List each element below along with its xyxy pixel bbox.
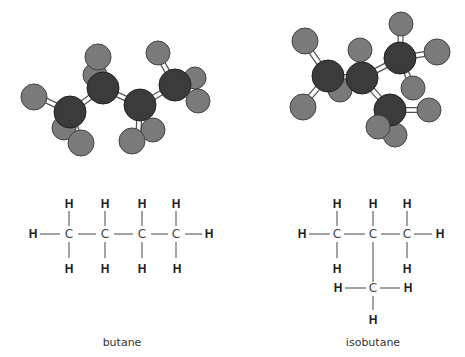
atom-h: H [65, 197, 74, 211]
diagram-canvas: H C C C C H H H H H H H H H butane H C C… [0, 0, 465, 357]
butane-structural-formula: H C C C C H H H H H H H H H [29, 197, 214, 276]
atom-h: H [101, 197, 110, 211]
atom-h: H [369, 197, 378, 211]
atom-h: H [138, 262, 147, 276]
atom-h: H [65, 262, 74, 276]
atom-h: H [404, 281, 413, 295]
isobutane-label: isobutane [346, 336, 400, 349]
atom-c: C [172, 227, 180, 241]
atom-h: H [172, 197, 181, 211]
atom-c: C [65, 227, 73, 241]
atom-c: C [369, 227, 377, 241]
atom-c: C [138, 227, 146, 241]
isobutane-3d-model [290, 12, 450, 147]
atom-h: H [403, 197, 412, 211]
atom-h: H [436, 227, 445, 241]
atom-c: C [369, 281, 377, 295]
atom-h: H [403, 262, 412, 276]
atom-h: H [298, 227, 307, 241]
butane-label: butane [103, 336, 142, 349]
atom-c: C [403, 227, 411, 241]
butane-3d-model [21, 41, 210, 156]
atom-h: H [333, 197, 342, 211]
atom-c: C [101, 227, 109, 241]
atom-h: H [173, 262, 182, 276]
atom-h: H [333, 262, 342, 276]
atom-h: H [101, 262, 110, 276]
isobutane-structural-formula: H C C C H H H H H H H C H H [298, 197, 445, 327]
atom-h: H [205, 227, 214, 241]
atom-h: H [334, 281, 343, 295]
atom-h: H [29, 227, 38, 241]
atom-c: C [333, 227, 341, 241]
atom-h: H [138, 197, 147, 211]
atom-h: H [369, 313, 378, 327]
